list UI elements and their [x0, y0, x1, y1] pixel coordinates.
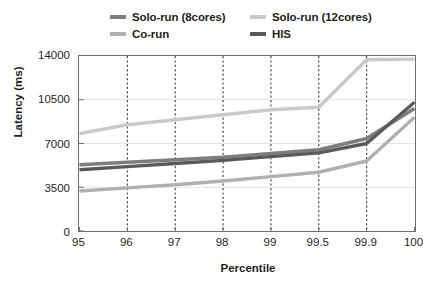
x-tick-label: 97	[168, 236, 181, 248]
legend-swatch-his	[250, 32, 266, 36]
legend-swatch-solo-run-12cores	[250, 15, 266, 19]
legend-label-co-run: Co-run	[132, 28, 169, 40]
legend-item-solo-run-12cores: Solo-run (12cores)	[250, 8, 400, 25]
y-tick-label: 10500	[14, 93, 70, 105]
y-tick-label: 7000	[14, 138, 70, 150]
legend-item-co-run: Co-run	[110, 25, 250, 42]
legend-swatch-solo-run-8cores	[110, 15, 126, 19]
x-tick-label: 96	[120, 236, 133, 248]
x-tick-label: 95	[72, 236, 85, 248]
y-tick-label: 0	[14, 226, 70, 238]
x-tick-label: 99.5	[307, 236, 329, 248]
legend-item-solo-run-8cores: Solo-run (8cores)	[110, 8, 250, 25]
series-line-solo-run-8cores	[80, 109, 415, 165]
y-tick-label: 14000	[14, 49, 70, 61]
legend-swatch-co-run	[110, 32, 126, 36]
chart-legend: Solo-run (8cores) Solo-run (12cores) Co-…	[110, 8, 410, 42]
y-tick-label: 3500	[14, 182, 70, 194]
x-tick-label: 100	[404, 236, 423, 248]
legend-label-solo-run-12cores: Solo-run (12cores)	[272, 11, 372, 23]
x-axis-title: Percentile	[78, 262, 418, 274]
y-axis-tick-labels: 0350070001050014000	[14, 0, 70, 285]
legend-item-his: HIS	[250, 25, 400, 42]
x-tick-label: 99	[264, 236, 277, 248]
plot-area	[78, 55, 416, 232]
series-line-solo-run-12cores	[80, 59, 415, 133]
x-tick-label: 99.9	[354, 236, 376, 248]
legend-label-solo-run-8cores: Solo-run (8cores)	[132, 11, 226, 23]
plot-svg	[79, 56, 415, 231]
x-tick-label: 98	[216, 236, 229, 248]
legend-label-his: HIS	[272, 28, 291, 40]
